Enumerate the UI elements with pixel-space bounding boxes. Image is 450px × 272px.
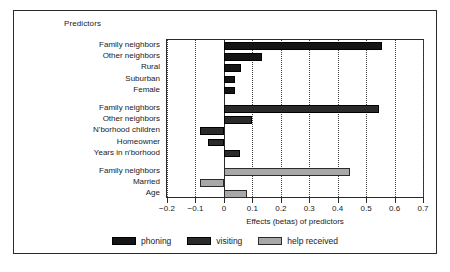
chart-legend: phoningvisitinghelp received [14,236,436,246]
category-group-gap [22,95,160,102]
bar [224,116,252,124]
bar-row [167,103,423,114]
category-label: Years in n'borhood [22,147,160,158]
x-axis-tick-label: 0.1 [247,204,258,213]
x-axis-tick [167,198,168,203]
bar-row [167,125,423,136]
x-axis-tick-label: −0.1 [188,204,204,213]
x-axis-tick-label: 0.5 [361,204,372,213]
bar [224,105,379,113]
bar-row [167,177,423,188]
x-axis-tick-label: 0.2 [275,204,286,213]
x-axis-tick [281,198,282,203]
x-axis-tick-label: 0.3 [304,204,315,213]
legend-label: help received [287,236,338,246]
category-label: Homeowner [22,136,160,147]
category-label: Family neighbors [22,165,160,176]
legend-entry-visiting: visiting [187,236,242,246]
legend-swatch-help [258,237,282,245]
bar-row [167,51,423,62]
x-axis-tick-label: 0.7 [417,204,428,213]
x-axis-tick-label: −0.2 [159,204,175,213]
bar-row [167,137,423,148]
predictors-column-heading: Predictors [64,19,101,28]
category-label: Family neighbors [22,39,160,50]
bar-row [167,62,423,73]
category-label: N'borhood children [22,124,160,135]
x-axis-tick [252,198,253,203]
category-label: Rural [22,61,160,72]
bar [224,76,235,84]
bar-row [167,40,423,51]
category-label: Suburban [22,73,160,84]
category-label-column: Family neighborsOther neighborsRuralSubu… [22,39,160,198]
x-axis-tick [338,198,339,203]
x-axis-tick [395,198,396,203]
bar [224,190,247,198]
bar [200,179,224,187]
category-label: Other neighbors [22,113,160,124]
bar [224,87,235,95]
bar-row [167,74,423,85]
bars-layer [167,40,423,197]
legend-swatch-visiting [187,237,211,245]
x-axis-tick-labels: −0.2−0.100.10.20.30.40.50.60.7 [166,204,424,216]
x-axis-title: Effects (betas) of predictors [166,217,424,226]
bar [224,150,240,158]
bar-row [167,166,423,177]
bar-row [167,85,423,96]
x-axis-tick [224,198,225,203]
category-group-gap [22,158,160,165]
bar-row [167,148,423,159]
chart-figure-frame: Predictors Family neighborsOther neighbo… [13,10,437,254]
category-label: Female [22,84,160,95]
bar [224,64,241,72]
category-label: Family neighbors [22,102,160,113]
legend-swatch-phoning [112,237,136,245]
category-label: Age [22,187,160,198]
x-axis-tick-label: 0.4 [332,204,343,213]
legend-entry-help: help received [258,236,338,246]
category-label: Married [22,176,160,187]
x-axis-tick [195,198,196,203]
bar [224,168,351,176]
x-axis-tick [423,198,424,203]
x-axis-tick [309,198,310,203]
plot-area [166,39,424,198]
bar [224,42,382,50]
legend-entry-phoning: phoning [112,236,171,246]
bar-row [167,114,423,125]
x-axis-tick-label: 0.6 [389,204,400,213]
x-axis-tick-label: 0 [222,204,226,213]
gridline [423,40,424,197]
bar [200,127,224,135]
bar [208,139,224,147]
legend-label: visiting [216,236,242,246]
category-label: Other neighbors [22,50,160,61]
bar [224,53,262,61]
x-axis-tick [366,198,367,203]
legend-label: phoning [141,236,171,246]
